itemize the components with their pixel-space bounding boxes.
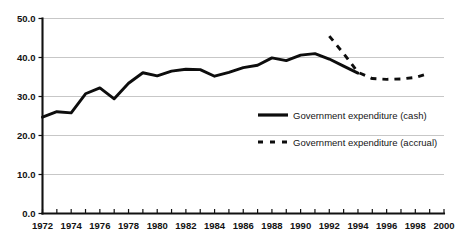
x-tick-label: 1996 (376, 220, 397, 231)
x-tick-label: 1978 (118, 220, 139, 231)
x-tick-label: 1998 (405, 220, 426, 231)
chart-legend: Government expenditure (cash) Government… (258, 110, 437, 148)
y-tick-label: 20.0 (17, 130, 36, 141)
x-tick-label: 1982 (175, 220, 196, 231)
y-tick-label: 0.0 (22, 208, 35, 219)
y-tick-labels-group: 0.010.020.030.040.050.0 (17, 13, 36, 219)
x-tick-label: 1994 (347, 220, 369, 231)
x-tick-label: 2000 (433, 220, 454, 231)
y-tick-label: 10.0 (17, 169, 36, 180)
x-tick-label: 1984 (204, 220, 226, 231)
x-tick-label: 1974 (61, 220, 83, 231)
gridlines-group (43, 19, 445, 175)
y-tick-label: 30.0 (17, 91, 36, 102)
x-tick-label: 1972 (32, 220, 53, 231)
y-tick-label: 40.0 (17, 52, 36, 63)
legend-label-accrual: Government expenditure (accrual) (293, 137, 437, 148)
x-tick-label: 1986 (233, 220, 254, 231)
x-tick-label: 1990 (290, 220, 311, 231)
x-tick-label: 1992 (319, 220, 340, 231)
series-line-cash (43, 54, 358, 118)
x-tick-label: 1980 (147, 220, 168, 231)
chart-canvas: 0.010.020.030.040.050.0 1972197419761978… (0, 0, 467, 243)
x-tick-label: 1976 (89, 220, 110, 231)
legend-label-cash: Government expenditure (cash) (293, 110, 427, 121)
x-tick-label: 1988 (261, 220, 282, 231)
line-chart: 0.010.020.030.040.050.0 1972197419761978… (0, 0, 467, 243)
y-tick-label: 50.0 (17, 13, 36, 24)
x-tick-labels-group: 1972197419761978198019821984198619881990… (32, 220, 455, 231)
